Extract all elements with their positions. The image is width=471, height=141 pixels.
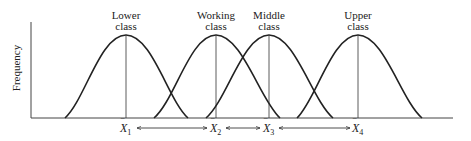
label-middle-class: Middle class — [234, 10, 304, 32]
label-line2: class — [234, 21, 304, 32]
curve-upper-class — [297, 35, 422, 118]
mean-label-2: ‾X2 — [210, 121, 221, 137]
label-lower-class: Lower class — [91, 10, 161, 32]
label-line2: class — [323, 21, 393, 32]
mean-label-3: ‾X3 — [263, 121, 274, 137]
y-axis-label: Frequency — [10, 40, 22, 96]
mean-label-4: ‾X4 — [352, 121, 363, 137]
curve-lower-class — [65, 35, 188, 118]
label-line2: class — [91, 21, 161, 32]
mean-label-1: ‾X1 — [120, 121, 131, 137]
label-upper-class: Upper class — [323, 10, 393, 32]
